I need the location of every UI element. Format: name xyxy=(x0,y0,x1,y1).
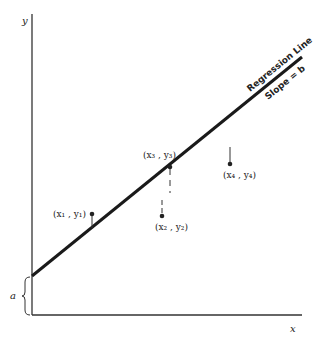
point-2: (x₂ , y₂) xyxy=(155,200,188,232)
svg-text:(x₁ , y₁): (x₁ , y₁) xyxy=(53,209,86,219)
intercept-brace xyxy=(22,277,30,315)
point-4: (x₄ , y₄) xyxy=(223,147,256,180)
y-axis-label: y xyxy=(21,15,28,26)
svg-text:(x₄ , y₄): (x₄ , y₄) xyxy=(223,170,256,180)
x-axis-label: x xyxy=(290,323,296,334)
svg-text:(x₂ , y₂): (x₂ , y₂) xyxy=(155,222,188,232)
svg-text:(x₃ , y₃): (x₃ , y₃) xyxy=(143,150,176,160)
intercept-label: a xyxy=(10,290,16,301)
regression-diagram: y x a Regression Line Slope = b (x₁ , y₁… xyxy=(0,0,320,339)
point-1: (x₁ , y₁) xyxy=(53,209,94,228)
regression-line xyxy=(32,57,302,276)
